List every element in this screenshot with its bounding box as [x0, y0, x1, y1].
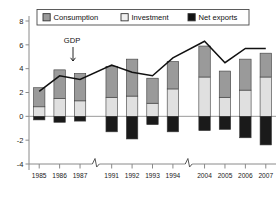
bar-segment-investment — [54, 98, 65, 116]
bar-segment-net-exports — [147, 116, 158, 124]
x-axis-break-marker — [92, 159, 99, 168]
bar-group — [33, 88, 44, 120]
bar-segment-net-exports — [167, 116, 178, 131]
bar-segment-net-exports — [199, 116, 210, 130]
y-tick-label: 8 — [19, 17, 23, 26]
bar-segment-net-exports — [126, 116, 137, 139]
bar-segment-investment — [33, 107, 44, 117]
legend-label-investment: Investment — [132, 13, 170, 22]
bar-segment-investment — [219, 97, 230, 116]
y-tick-label: -2 — [17, 136, 24, 145]
bar-segment-net-exports — [106, 116, 117, 131]
bar-group — [54, 70, 65, 122]
x-axis-group: 1985198619871991199219931994200420052006… — [32, 159, 274, 180]
bar-group — [240, 59, 251, 138]
legend-label-consumption: Consumption — [54, 13, 99, 22]
bar-group — [147, 78, 158, 124]
bar-segment-consumption — [260, 53, 271, 77]
x-tick-label: 1985 — [32, 172, 47, 179]
bar-segment-investment — [74, 101, 85, 116]
gdp-annotation-label: GDP — [64, 36, 80, 45]
x-tick-label: 1994 — [166, 172, 181, 179]
legend-swatch-investment — [121, 14, 128, 21]
bar-segment-consumption — [54, 70, 65, 99]
bar-segment-investment — [126, 96, 137, 116]
bar-group — [219, 71, 230, 129]
bar-segment-investment — [199, 77, 210, 116]
y-tick-label: 4 — [19, 64, 23, 73]
bar-segment-net-exports — [260, 116, 271, 145]
bar-segment-net-exports — [240, 116, 251, 137]
bar-group — [167, 62, 178, 132]
bar-segment-net-exports — [74, 116, 85, 121]
bar-segment-consumption — [199, 46, 210, 77]
bar-segment-net-exports — [33, 116, 44, 120]
x-tick-label: 2004 — [197, 172, 212, 179]
bars-group — [33, 46, 271, 145]
x-tick-label: 2007 — [258, 172, 273, 179]
bar-segment-investment — [260, 77, 271, 116]
x-tick-label: 1991 — [104, 172, 119, 179]
gdp-annotation: GDP — [64, 36, 80, 61]
x-tick-label: 1992 — [125, 172, 140, 179]
legend-label-net-exports: Net exports — [199, 13, 238, 22]
bar-group — [260, 53, 271, 145]
bar-segment-consumption — [126, 59, 137, 96]
x-tick-label: 2005 — [218, 172, 233, 179]
bar-segment-consumption — [219, 71, 230, 97]
bar-segment-consumption — [240, 59, 251, 90]
y-tick-label: -4 — [17, 160, 24, 169]
bar-group — [199, 46, 210, 131]
chart-container: -4-2024681985198619871991199219931994200… — [0, 0, 279, 203]
x-tick-label: 2006 — [238, 172, 253, 179]
bar-segment-investment — [106, 97, 117, 116]
x-tick-label: 1993 — [145, 172, 160, 179]
y-tick-label: 2 — [19, 88, 23, 97]
x-tick-label: 1986 — [52, 172, 67, 179]
y-tick-label: 0 — [19, 112, 23, 121]
legend: ConsumptionInvestmentNet exports — [37, 10, 249, 26]
bar-segment-net-exports — [54, 116, 65, 122]
x-axis-break-marker — [185, 159, 192, 168]
bar-segment-investment — [240, 90, 251, 116]
bar-segment-consumption — [167, 62, 178, 89]
bar-segment-investment — [147, 103, 158, 116]
bar-group — [106, 66, 117, 132]
legend-swatch-consumption — [43, 14, 50, 21]
legend-swatch-net-exports — [188, 14, 195, 21]
bar-group — [74, 73, 85, 121]
bar-segment-consumption — [106, 66, 117, 97]
bar-segment-investment — [167, 89, 178, 116]
bar-segment-net-exports — [219, 116, 230, 129]
y-tick-label: 6 — [19, 41, 23, 50]
bar-segment-consumption — [147, 78, 158, 103]
economic-growth-contribution-chart: -4-2024681985198619871991199219931994200… — [0, 0, 279, 203]
x-tick-label: 1987 — [73, 172, 88, 179]
